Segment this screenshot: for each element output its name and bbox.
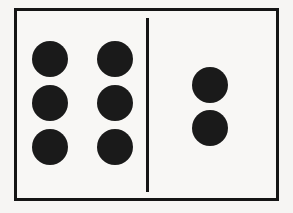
pip-right-2	[192, 110, 228, 146]
domino-canvas	[0, 0, 293, 213]
pip-left-5	[32, 129, 68, 165]
pip-left-2	[97, 41, 133, 77]
pip-left-1	[32, 41, 68, 77]
pip-right-1	[192, 67, 228, 103]
pip-left-6	[97, 129, 133, 165]
pip-left-4	[97, 85, 133, 121]
domino-half-right	[166, 11, 293, 198]
center-divider	[146, 18, 149, 192]
pip-left-3	[32, 85, 68, 121]
